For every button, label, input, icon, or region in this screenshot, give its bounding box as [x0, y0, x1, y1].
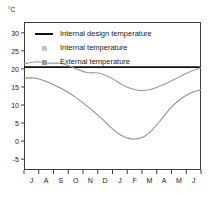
legend-label: Internal temperature — [60, 44, 128, 52]
x-axis-tick-label: M — [143, 177, 155, 184]
temperature-chart: °C 302520151050-5 JASONDJFMAMJ Internal … — [0, 0, 214, 214]
y-axis-tick-label: 10 — [4, 102, 19, 109]
x-axis-tick-label: N — [84, 177, 96, 184]
x-axis-ticks — [24, 170, 201, 174]
y-axis-tick-label: 20 — [4, 65, 19, 72]
legend-item-internal-design-temperature: Internal design temperature — [34, 27, 194, 41]
legend-line-key-icon — [34, 33, 54, 35]
legend-label: External temperature — [60, 58, 130, 66]
y-axis-tick-label: -5 — [4, 156, 19, 163]
x-axis-tick-label: O — [70, 177, 82, 184]
x-axis-tick-label: F — [129, 177, 141, 184]
y-axis-tick-label: 0 — [4, 138, 19, 145]
chart-legend: Internal design temperature Internal tem… — [34, 27, 194, 69]
legend-item-external-temperature: External temperature — [34, 55, 194, 69]
y-axis-tick-label: 15 — [4, 83, 19, 90]
x-axis-tick-label: S — [55, 177, 67, 184]
x-axis-tick-label: A — [158, 177, 170, 184]
legend-item-internal-temperature: Internal temperature — [34, 41, 194, 55]
legend-label: Internal design temperature — [60, 30, 152, 38]
x-axis-tick-label: J — [25, 177, 37, 184]
y-axis-tick-label: 30 — [4, 29, 19, 36]
x-axis-tick-label: D — [99, 177, 111, 184]
x-axis-tick-label: J — [188, 177, 200, 184]
x-axis-tick-label: J — [114, 177, 126, 184]
y-axis-tick-label: 25 — [4, 47, 19, 54]
legend-swatch-icon — [34, 60, 54, 65]
x-axis-tick-label: A — [40, 177, 52, 184]
y-axis-tick-label: 5 — [4, 120, 19, 127]
legend-swatch-icon — [34, 46, 54, 51]
y-axis-unit-label: °C — [8, 7, 15, 14]
x-axis-tick-label: M — [173, 177, 185, 184]
